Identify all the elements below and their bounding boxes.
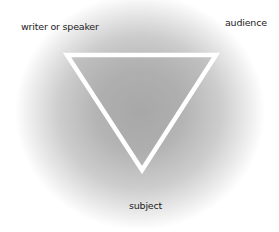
diagram-canvas: writer or speaker audience subject — [0, 0, 279, 232]
triangle-graphic — [0, 0, 279, 232]
label-writer-or-speaker: writer or speaker — [21, 21, 99, 32]
label-subject: subject — [129, 200, 162, 211]
label-audience: audience — [225, 17, 267, 28]
rhetorical-triangle — [67, 55, 216, 170]
